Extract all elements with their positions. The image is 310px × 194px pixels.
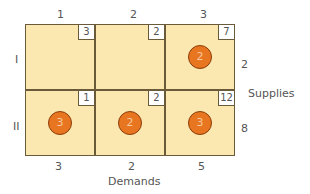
cost-box: 7 xyxy=(218,24,235,40)
cost-box: 3 xyxy=(78,24,95,40)
demand-1: 3 xyxy=(55,160,62,173)
cell-ii-3: 12 3 xyxy=(165,90,235,156)
cell-i-1: 3 xyxy=(25,24,95,90)
allocation-circle: 3 xyxy=(48,111,72,135)
demands-label: Demands xyxy=(108,175,160,188)
column-header-1: 1 xyxy=(57,8,64,21)
cost-box: 12 xyxy=(218,90,235,106)
supply-i: 2 xyxy=(241,58,248,71)
cell-ii-1: 1 3 xyxy=(25,90,95,156)
supplies-label: Supplies xyxy=(248,87,295,100)
row-header-i: I xyxy=(15,53,18,66)
cell-ii-2: 2 2 xyxy=(95,90,165,156)
column-header-3: 3 xyxy=(200,8,207,21)
allocation-circle: 2 xyxy=(188,45,212,69)
demand-3: 5 xyxy=(198,160,205,173)
row-header-ii: II xyxy=(13,120,20,133)
cost-box: 2 xyxy=(148,24,165,40)
cell-i-2: 2 xyxy=(95,24,165,90)
demand-2: 2 xyxy=(128,160,135,173)
column-header-2: 2 xyxy=(130,8,137,21)
cost-box: 2 xyxy=(148,90,165,106)
allocation-circle: 2 xyxy=(118,111,142,135)
cost-box: 1 xyxy=(78,90,95,106)
supply-ii: 8 xyxy=(241,122,248,135)
allocation-circle: 3 xyxy=(188,111,212,135)
cell-i-3: 7 2 xyxy=(165,24,235,90)
